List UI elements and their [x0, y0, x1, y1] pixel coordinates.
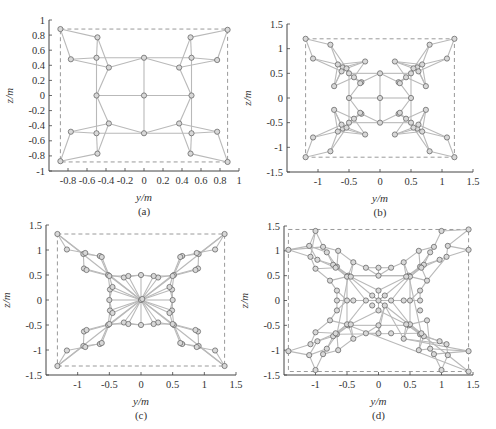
x-tick-label: -1 [311, 379, 320, 390]
member-line [71, 123, 109, 131]
node-marker [445, 353, 450, 358]
y-tick-label: -0.8 [28, 150, 45, 161]
member-line [144, 58, 179, 68]
node-marker [420, 129, 425, 134]
y-tick-label: 0.2 [32, 75, 45, 86]
node-marker [99, 340, 104, 345]
node-marker [439, 367, 444, 372]
node-marker [382, 303, 387, 308]
node-marker [107, 321, 112, 326]
node-marker [358, 81, 363, 86]
node-marker [370, 293, 375, 298]
x-tick-label: 1.5 [466, 176, 479, 187]
node-marker [389, 298, 394, 303]
member-line [60, 132, 70, 161]
node-marker [327, 278, 332, 283]
y-tick-label: 0 [37, 295, 42, 306]
member-line [448, 246, 469, 250]
member-line [316, 268, 336, 269]
member-line [179, 123, 217, 131]
node-marker [428, 250, 433, 255]
member-line [288, 250, 310, 257]
node-marker [313, 228, 318, 233]
node-marker [452, 155, 457, 160]
node-marker [94, 131, 99, 136]
figure-canvas: -0.8-0.6-0.4-0.200.20.40.60.81-1-0.8-0.6… [0, 0, 496, 429]
node-marker [193, 327, 198, 332]
x-tick-label: 0.2 [156, 175, 169, 186]
node-marker [376, 273, 381, 278]
node-marker [335, 62, 340, 67]
member-line [347, 301, 366, 325]
node-marker [408, 71, 413, 76]
node-marker [411, 125, 416, 130]
member-line [179, 68, 191, 96]
node-marker [389, 265, 394, 270]
y-axis-label: z/m [0, 292, 12, 308]
member-line [379, 277, 407, 291]
node-marker [333, 331, 338, 336]
node-marker [213, 348, 218, 353]
node-marker [83, 250, 88, 255]
y-tick-label: 0.8 [32, 30, 45, 41]
node-marker [215, 57, 220, 62]
x-tick-label: 0.5 [403, 379, 416, 390]
y-tick-label: 1.5 [270, 19, 283, 30]
node-marker [95, 35, 100, 40]
node-marker [308, 342, 313, 347]
node-marker [419, 265, 424, 270]
x-tick-label: 1 [439, 379, 444, 390]
member-line [71, 58, 97, 60]
x-tick-label: 0.5 [404, 176, 417, 187]
x-tick-label: 0 [141, 175, 146, 186]
panel-caption: (b) [374, 206, 387, 219]
node-marker [351, 336, 356, 341]
member-line [179, 123, 190, 153]
x-tick-label: 1 [202, 379, 207, 390]
node-marker [404, 274, 409, 279]
node-marker [351, 116, 356, 121]
node-marker [344, 66, 349, 71]
node-marker [110, 310, 115, 315]
node-marker [68, 129, 73, 134]
member-line [306, 151, 331, 157]
node-marker [324, 250, 329, 255]
node-marker [315, 339, 320, 344]
node-marker [99, 254, 104, 259]
node-marker [370, 303, 375, 308]
member-line [306, 39, 313, 59]
member-line [179, 96, 191, 124]
node-marker [377, 71, 382, 76]
x-tick-label: 0.8 [213, 175, 226, 186]
member-line [71, 132, 97, 134]
node-marker [310, 56, 315, 61]
y-tick-label: 0.5 [267, 270, 280, 281]
x-tick-label: 0 [138, 379, 143, 390]
member-line [191, 133, 192, 153]
y-tick-label: 1 [278, 43, 283, 54]
node-marker [84, 327, 89, 332]
node-marker [358, 110, 363, 115]
x-tick-label: 0.4 [175, 175, 189, 186]
x-tick-label: 1.5 [466, 379, 479, 390]
x-tick-label: 1 [439, 176, 444, 187]
member-line [191, 30, 228, 38]
node-marker [222, 363, 227, 368]
panel-caption: (a) [138, 205, 151, 218]
node-marker [334, 298, 339, 303]
member-line [361, 73, 380, 82]
x-tick-label: 0 [377, 176, 382, 187]
y-tick-label: -0.2 [28, 105, 45, 116]
node-marker [346, 95, 351, 100]
node-marker [320, 352, 325, 357]
y-axis-label: z/m [241, 90, 253, 106]
x-tick-label: 0.5 [166, 379, 179, 390]
node-marker [138, 322, 143, 327]
x-axis-label: y/m [371, 192, 388, 204]
node-marker [170, 321, 175, 326]
member-line [191, 154, 228, 162]
node-marker [392, 132, 397, 137]
x-tick-label: -1 [73, 379, 82, 390]
node-marker [55, 231, 60, 236]
member-line [192, 132, 218, 134]
